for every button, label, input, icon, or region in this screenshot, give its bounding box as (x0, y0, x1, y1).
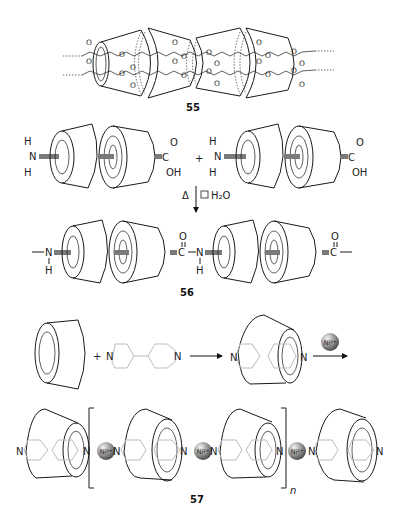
atom-N: N (210, 446, 217, 457)
atom-N: N (376, 446, 383, 457)
atom-N: N (196, 247, 203, 258)
atom-N: N (180, 446, 187, 457)
ester-oxygen: O (172, 38, 178, 47)
ester-oxygen: O (86, 57, 92, 66)
plus-sign: + (93, 351, 101, 362)
ester-oxygen: O (119, 69, 125, 78)
atom-C: C (348, 152, 355, 163)
atom-C: C (330, 247, 337, 258)
atom-H: H (209, 167, 217, 178)
atom-C: C (162, 152, 169, 163)
atom-C: C (178, 247, 185, 258)
atom-N: N (308, 446, 315, 457)
ester-oxygen: O (291, 47, 297, 56)
ester-oxygen: O (256, 38, 262, 47)
atom-N: N (276, 446, 283, 457)
ester-oxygen: O (265, 70, 271, 79)
ester-oxygen: O (214, 79, 220, 88)
ester-oxygen: O (86, 38, 92, 47)
reactants-57: + N N N N Ni²⁺ (35, 315, 347, 389)
ester-oxygen: O (256, 57, 262, 66)
reaction-arrow-56: Δ H₂O (182, 186, 231, 212)
atom-OH: OH (166, 167, 181, 178)
atom-N: N (113, 446, 120, 457)
atom-H: H (209, 136, 217, 147)
atom-N: N (230, 352, 237, 363)
ni-label: Ni²⁺ (100, 448, 113, 456)
atom-N: N (106, 351, 113, 362)
compound-label-55: 55 (186, 102, 200, 113)
compound-label-57: 57 (190, 494, 204, 505)
ni-label: Ni²⁺ (324, 339, 337, 347)
plus-sign: + (195, 153, 203, 164)
ester-oxygen: O (206, 67, 212, 76)
atom-N: N (29, 151, 36, 162)
compound-56: N H C O N H C O 56 (32, 220, 352, 298)
ester-oxygen: O (214, 59, 220, 68)
compound-57: N N Ni²⁺ N N Ni²⁺ N N n Ni²⁺ (16, 408, 383, 505)
ester-oxygen: O (181, 52, 187, 61)
ester-oxygen: O (299, 80, 305, 89)
atom-O: O (179, 231, 187, 242)
atom-O: O (331, 231, 339, 242)
reactants-56: H N H C O OH + H N H C O OH (24, 124, 367, 188)
ni-label: Ni²⁺ (291, 448, 304, 456)
ester-oxygen: O (130, 81, 136, 90)
ni-label: Ni²⁺ (197, 448, 210, 456)
atom-H: H (196, 265, 204, 276)
atom-O: O (170, 137, 178, 148)
minus-box-icon (201, 191, 208, 198)
atom-OH: OH (352, 167, 367, 178)
atom-N: N (16, 446, 23, 457)
water-byproduct: H₂O (211, 190, 231, 201)
reaction-scheme: O O O O O O O O O O O O O O O O O O O O … (0, 0, 400, 524)
ester-oxygen: O (206, 48, 212, 57)
atom-H: H (24, 167, 32, 178)
ester-oxygen: O (181, 71, 187, 80)
repeat-n: n (290, 485, 296, 496)
atom-H: H (24, 136, 32, 147)
atom-N: N (174, 351, 181, 362)
atom-N: N (45, 247, 52, 258)
ester-oxygen: O (291, 66, 297, 75)
atom-O: O (356, 137, 364, 148)
atom-N: N (214, 151, 221, 162)
compound-label-56: 56 (180, 287, 194, 298)
bipyridine: N N (106, 344, 181, 368)
heat-symbol: Δ (182, 190, 189, 201)
ester-oxygen: O (265, 51, 271, 60)
ester-oxygen: O (172, 57, 178, 66)
compound-55: O O O O O O O O O O O O O O O O O O O O … (63, 28, 334, 113)
ester-oxygen: O (130, 63, 136, 72)
ester-oxygen: O (299, 59, 305, 68)
atom-H: H (45, 265, 53, 276)
ester-oxygen: O (119, 50, 125, 59)
atom-N: N (300, 352, 307, 363)
